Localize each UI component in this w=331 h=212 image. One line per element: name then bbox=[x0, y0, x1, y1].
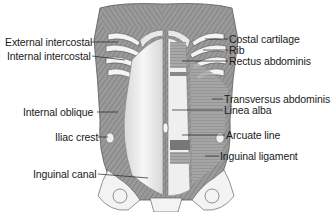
anatomy-diagram: External intercostal Internal intercosta… bbox=[0, 0, 331, 212]
label-inguinal-ligament: Inguinal ligament bbox=[220, 151, 298, 162]
label-iliac-crest: Iliac crest bbox=[55, 132, 98, 143]
label-linea-alba: Linea alba bbox=[224, 105, 271, 116]
label-internal-intercostal: Internal intercostal bbox=[7, 51, 91, 62]
label-external-intercostal: External intercostal bbox=[5, 37, 92, 48]
label-arcuate-line: Arcuate line bbox=[226, 130, 280, 141]
label-rectus-abdominis: Rectus abdominis bbox=[229, 56, 311, 67]
label-inguinal-canal: Inguinal canal bbox=[33, 169, 96, 180]
label-internal-oblique: Internal oblique bbox=[23, 107, 93, 118]
